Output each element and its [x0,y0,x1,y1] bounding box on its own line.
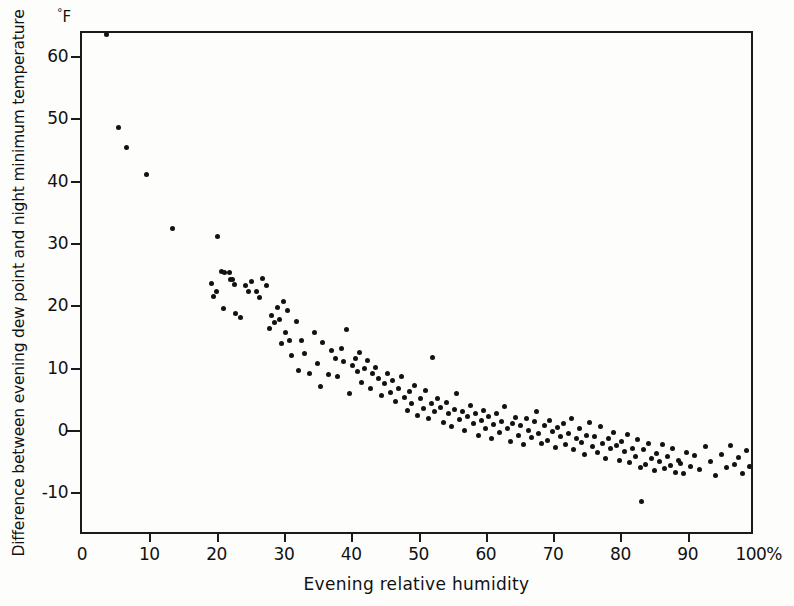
y-tick-label-0: 0 [58,420,68,440]
data-point [465,414,470,419]
data-point [660,442,665,447]
data-point [254,289,259,294]
x-tick-10 [149,532,151,542]
data-point [388,390,393,395]
x-tick-40 [351,532,353,542]
data-point [513,415,518,420]
data-point [355,369,360,374]
x-tick-label-60: 60 [475,544,496,564]
y-tick-label-30: 30 [47,233,68,253]
data-point [281,299,286,304]
data-point [320,340,325,345]
data-point [402,395,407,400]
plot-area: -100102030405060 0102030405060708090100% [80,31,753,534]
data-point [654,451,659,456]
y-tick-label-40: 40 [47,171,68,191]
data-point [633,454,638,459]
data-point [592,434,597,439]
data-point [619,439,624,444]
x-tick-90 [688,532,690,542]
data-point [415,413,420,418]
data-point [341,359,346,364]
x-tick-label-50: 50 [408,544,429,564]
data-point [170,226,175,231]
data-point [719,452,724,457]
data-point [471,421,476,426]
data-point [657,459,662,464]
data-point [370,371,375,376]
data-point [462,428,467,433]
data-point [257,295,262,300]
data-point [643,462,648,467]
data-point [606,436,611,441]
data-point [529,435,534,440]
data-point [339,346,344,351]
data-point [608,446,613,451]
data-point [423,388,428,393]
data-point [294,319,299,324]
y-tick-40 [71,181,82,183]
data-point [688,464,693,469]
data-point [452,407,457,412]
data-point [550,429,555,434]
y-tick-20 [71,305,82,307]
data-point [558,434,563,439]
x-tick-70 [553,532,555,542]
data-point [318,384,323,389]
data-point [460,409,465,414]
data-point [499,419,504,424]
data-point [603,456,608,461]
data-point [476,433,481,438]
data-point [479,418,484,423]
data-point [617,458,622,463]
data-point [116,125,121,130]
data-point [365,358,370,363]
data-point [697,467,702,472]
data-point [668,463,673,468]
data-point [524,416,529,421]
data-point [315,361,320,366]
data-point [329,348,334,353]
data-point [376,376,381,381]
data-point [407,389,412,394]
data-point [536,431,541,436]
data-point [494,411,499,416]
data-point [625,432,630,437]
data-point [542,423,547,428]
data-point [362,366,367,371]
x-tick-60 [486,532,488,542]
fahrenheit-letter: F [63,8,72,26]
data-point [449,424,454,429]
data-point [335,374,340,379]
data-point [508,439,513,444]
x-tick-label-70: 70 [543,544,564,564]
data-point [547,418,552,423]
x-tick-label-100: 100% [735,544,782,564]
data-point [678,461,683,466]
data-point [249,279,254,284]
data-point [399,374,404,379]
data-point [473,411,478,416]
data-point [104,33,109,37]
x-tick-label-30: 30 [274,544,295,564]
data-point [214,289,219,294]
data-point [641,447,646,452]
data-point [539,441,544,446]
data-point [275,305,280,310]
data-point [409,401,414,406]
data-point [635,437,640,442]
data-point [569,416,574,421]
data-point [347,391,352,396]
data-point [627,460,632,465]
x-tick-label-10: 10 [139,544,160,564]
data-point [426,416,431,421]
data-point [553,445,558,450]
data-point [396,386,401,391]
data-point [561,421,566,426]
data-point [227,270,232,275]
data-point [630,446,635,451]
x-tick-50 [419,532,421,542]
data-point [489,436,494,441]
data-point [412,383,417,388]
data-point [545,438,550,443]
